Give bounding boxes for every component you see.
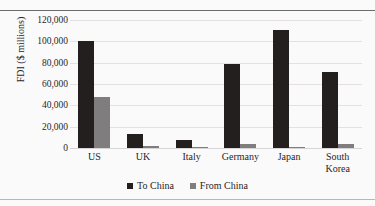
bar-group [216, 20, 265, 148]
y-axis-tick-label: 0 [26, 143, 68, 153]
y-axis-tick-label: 100,000 [26, 36, 68, 46]
x-axis-tick-label-line: US [70, 151, 119, 163]
x-axis-tick-label-line: UK [119, 151, 168, 163]
bar [143, 146, 159, 148]
bar [338, 144, 354, 148]
bar [94, 97, 110, 148]
bar [176, 140, 192, 149]
x-axis-tick-label: Italy [167, 151, 216, 174]
legend-item[interactable]: From China [190, 180, 248, 191]
page-rule-top [0, 10, 375, 11]
bar-group [265, 20, 314, 148]
page-rule-bottom [0, 199, 375, 200]
legend-label: To China [137, 180, 174, 191]
x-axis-tick-label: UK [119, 151, 168, 174]
plot-area [70, 20, 362, 148]
y-axis-tick-label: 80,000 [26, 58, 68, 68]
bar-group [119, 20, 168, 148]
bar [273, 30, 289, 148]
y-axis-tick-label: 120,000 [26, 15, 68, 25]
bar [224, 64, 240, 148]
bar [322, 72, 338, 148]
x-axis-tick-label-line: Korea [313, 163, 362, 175]
bar [289, 147, 305, 148]
y-axis-tick-label: 40,000 [26, 100, 68, 110]
bar [192, 147, 208, 148]
bar [78, 41, 94, 148]
x-axis-tick-label-line: Japan [265, 151, 314, 163]
figure-container: FDI ($ millions) 120,000100,00080,00060,… [0, 0, 375, 206]
x-axis-tick-labels: USUKItalyGermanyJapanSouthKorea [70, 151, 362, 174]
bar [240, 144, 256, 148]
y-axis-title: FDI ($ millions) [15, 0, 26, 120]
legend-item[interactable]: To China [127, 180, 174, 191]
x-axis-tick-label: Germany [216, 151, 265, 174]
x-axis-tick-label: Japan [265, 151, 314, 174]
bar-group [167, 20, 216, 148]
chart-legend: To ChinaFrom China [0, 180, 375, 191]
y-axis-tick-label: 60,000 [26, 79, 68, 89]
bar-group [313, 20, 362, 148]
x-axis-tick-label: US [70, 151, 119, 174]
y-axis-tick-label: 20,000 [26, 122, 68, 132]
running-head-text [6, 0, 246, 8]
legend-swatch-icon [190, 183, 196, 189]
y-axis-tick-labels: 120,000100,00080,00060,00040,00020,0000 [26, 14, 68, 154]
x-axis-tick-label: SouthKorea [313, 151, 362, 174]
x-axis-tick-label-line: South [313, 151, 362, 163]
legend-label: From China [200, 180, 248, 191]
bar-group [70, 20, 119, 148]
bar [127, 134, 143, 148]
x-axis-tick-label-line: Germany [216, 151, 265, 163]
x-axis-tick-label-line: Italy [167, 151, 216, 163]
legend-swatch-icon [127, 183, 133, 189]
axis-baseline [70, 148, 362, 149]
bar-groups [70, 20, 362, 148]
